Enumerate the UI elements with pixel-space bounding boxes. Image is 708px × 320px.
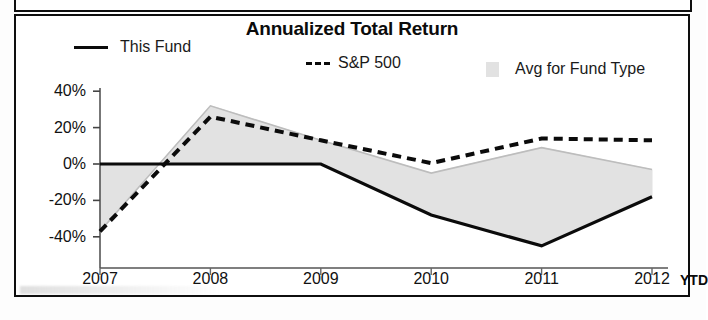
y-axis-tick-labels: 40%20%0%-20%-40%: [24, 16, 86, 299]
x-axis-ytd-note: YTD: [680, 272, 708, 288]
y-axis-tick-label: 40%: [24, 82, 86, 100]
plot-area: [16, 16, 692, 299]
y-axis-tick-label: -40%: [24, 228, 86, 246]
x-axis-tick-label: 2011: [524, 270, 558, 288]
y-axis-tick-label: -20%: [24, 191, 86, 209]
x-axis-tick-label: 2010: [413, 270, 449, 288]
y-axis-tick-label: 20%: [24, 119, 86, 137]
x-axis-tick-label: 2012: [634, 270, 670, 288]
scan-artifact: [20, 286, 220, 294]
annualized-total-return-panel: Annualized Total Return This Fund S&P 50…: [14, 14, 690, 297]
adjacent-panel-fragment: [14, 0, 692, 12]
plot-svg: [16, 16, 692, 299]
y-axis-tick-label: 0%: [24, 155, 86, 173]
avg-fund-type-band: [100, 106, 652, 246]
x-axis-tick-label: 2009: [303, 270, 339, 288]
